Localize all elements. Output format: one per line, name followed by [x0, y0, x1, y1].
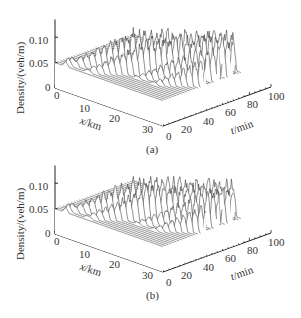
- waterfall-plot-a: [0, 0, 301, 159]
- z-tick-0: 0: [45, 82, 51, 93]
- panel-b: Density/(veh/m) 0 0.05 0.10 0 10 20 30 x…: [0, 146, 301, 305]
- z-axis-title: Density/(veh/m): [14, 188, 26, 260]
- t-tick-60: 60: [225, 107, 236, 118]
- t-tick-20: 20: [181, 270, 192, 281]
- t-tick-40: 40: [203, 116, 214, 127]
- t-tick-80: 80: [247, 245, 258, 256]
- t-tick-20: 20: [181, 124, 192, 135]
- x-tick-30: 30: [142, 270, 153, 281]
- t-tick-40: 40: [203, 262, 214, 273]
- z-tick-0: 0: [45, 228, 51, 239]
- t-tick-80: 80: [247, 99, 258, 110]
- x-tick-30: 30: [142, 124, 153, 135]
- x-tick-10: 10: [79, 103, 90, 114]
- t-tick-0: 0: [166, 277, 172, 288]
- x-tick-20: 20: [109, 259, 120, 270]
- x-tick-0: 0: [54, 90, 60, 101]
- t-tick-0: 0: [166, 131, 172, 142]
- panel-a: Density/(veh/m) 0 0.05 0.10 0 10 20 30 x…: [0, 0, 301, 159]
- z-axis-title: Density/(veh/m): [14, 42, 26, 114]
- z-tick-010: 0.10: [29, 35, 48, 46]
- z-tick-005: 0.05: [29, 204, 48, 215]
- z-tick-005: 0.05: [29, 58, 48, 69]
- x-tick-10: 10: [79, 249, 90, 260]
- x-tick-0: 0: [54, 236, 60, 247]
- z-tick-010: 0.10: [29, 181, 48, 192]
- panel-caption-b: (b): [146, 289, 159, 301]
- x-tick-20: 20: [109, 113, 120, 124]
- t-tick-100: 100: [268, 237, 285, 248]
- t-tick-100: 100: [268, 91, 285, 102]
- t-tick-60: 60: [225, 253, 236, 264]
